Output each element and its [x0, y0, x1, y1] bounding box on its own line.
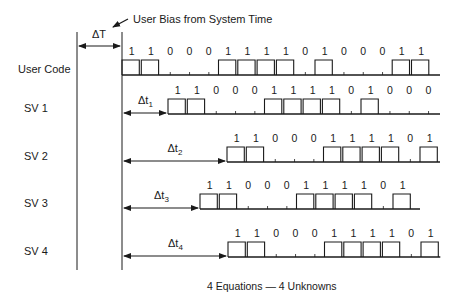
bit-value: 1 [350, 227, 356, 239]
bit-value: 0 [272, 132, 278, 144]
pulse-high [393, 194, 410, 209]
pulse-high [297, 194, 314, 209]
bit-value: 1 [330, 132, 336, 144]
bit-value: 1 [303, 179, 309, 191]
delta-T-label: ΔT [92, 28, 106, 40]
bit-value: 1 [427, 132, 433, 144]
bit-value: 0 [273, 227, 279, 239]
pulse-high [324, 147, 341, 162]
bit-value: 0 [284, 179, 290, 191]
pulse-high [247, 242, 264, 257]
signal-rows: User Code1100011110100011SV 1Δt111000111… [18, 45, 440, 257]
bit-value: 1 [329, 84, 335, 96]
pulse-high [325, 242, 342, 257]
pulse-high [227, 147, 244, 162]
pulse-high [246, 147, 263, 162]
pulse-high [316, 194, 333, 209]
bit-value: 1 [235, 227, 241, 239]
bit-value: 1 [175, 84, 181, 96]
pulse-high [284, 99, 301, 114]
bit-value: 1 [244, 45, 250, 57]
bit-value: 1 [322, 179, 328, 191]
bit-value: 1 [322, 45, 328, 57]
row-label: SV 3 [24, 197, 48, 209]
bit-value: 0 [341, 45, 347, 57]
bit-value: 1 [194, 84, 200, 96]
bit-value: 1 [271, 84, 277, 96]
bit-value: 0 [292, 132, 298, 144]
row-label: SV 2 [24, 150, 48, 162]
bit-value: 1 [342, 179, 348, 191]
bit-value: 1 [399, 45, 405, 57]
bit-value: 0 [233, 84, 239, 96]
bit-value: 0 [360, 45, 366, 57]
delay-label: Δt1 [138, 94, 153, 109]
pulse-high [141, 60, 158, 75]
pulse-high [420, 147, 437, 162]
bit-value: 0 [426, 84, 432, 96]
bit-value: 0 [302, 45, 308, 57]
bit-value: 0 [407, 132, 413, 144]
pseudorange-timing-diagram: ΔT User Bias from System Time User Code1… [0, 0, 452, 303]
bit-value: 0 [348, 84, 354, 96]
bit-value: 0 [167, 45, 173, 57]
bit-value: 1 [369, 132, 375, 144]
pulse-high [257, 60, 274, 75]
bit-value: 1 [361, 179, 367, 191]
bit-value: 1 [129, 45, 135, 57]
bit-value: 1 [370, 227, 376, 239]
bit-value: 0 [380, 45, 386, 57]
signal-row-sv-3: SV 3Δt311000111101 [24, 179, 420, 209]
bit-value: 1 [368, 84, 374, 96]
bit-value: 1 [349, 132, 355, 144]
delay-label: Δt2 [168, 142, 183, 157]
signal-row-user-code: User Code1100011110100011 [18, 45, 440, 75]
pulse-high [412, 60, 429, 75]
delay-label: Δt3 [154, 189, 169, 204]
pulse-high [219, 60, 236, 75]
bit-value: 0 [312, 227, 318, 239]
pulse-high [322, 99, 339, 114]
pulse-high [315, 60, 332, 75]
pulse-high [363, 242, 380, 257]
bit-value: 0 [206, 45, 212, 57]
bit-value: 1 [253, 132, 259, 144]
bit-value: 1 [264, 45, 270, 57]
pulse-high [200, 194, 217, 209]
signal-row-sv-1: SV 1Δt111000111101000 [24, 84, 440, 114]
caption: 4 Equations — 4 Unknowns [207, 280, 337, 292]
bit-value: 0 [406, 84, 412, 96]
pulse-high [238, 60, 255, 75]
pulse-high [361, 99, 378, 114]
pulse-high [362, 147, 379, 162]
bias-pointer-arrow [113, 19, 128, 27]
bit-value: 0 [187, 45, 193, 57]
pulse-high [187, 99, 204, 114]
pulse-high [354, 194, 371, 209]
bit-value: 0 [252, 84, 258, 96]
pulse-high [344, 242, 361, 257]
pulse-high [303, 99, 320, 114]
bit-value: 1 [226, 179, 232, 191]
bit-value: 1 [388, 132, 394, 144]
pulse-high [421, 242, 438, 257]
pulse-high [122, 60, 139, 75]
bit-value: 1 [148, 45, 154, 57]
bit-value: 0 [213, 84, 219, 96]
pulse-high [168, 99, 185, 114]
pulse-high [276, 60, 293, 75]
row-label: SV 1 [24, 102, 48, 114]
pulse-high [392, 60, 409, 75]
delay-label: Δt4 [168, 237, 183, 252]
bit-value: 1 [225, 45, 231, 57]
pulse-high [219, 194, 236, 209]
bit-value: 0 [380, 179, 386, 191]
signal-row-sv-2: SV 2Δt211000111101 [24, 132, 440, 162]
bit-value: 0 [311, 132, 317, 144]
bit-value: 1 [254, 227, 260, 239]
row-label: SV 4 [24, 245, 48, 257]
bit-value: 1 [234, 132, 240, 144]
bit-value: 1 [428, 227, 434, 239]
bit-value: 1 [310, 84, 316, 96]
bit-value: 1 [207, 179, 213, 191]
